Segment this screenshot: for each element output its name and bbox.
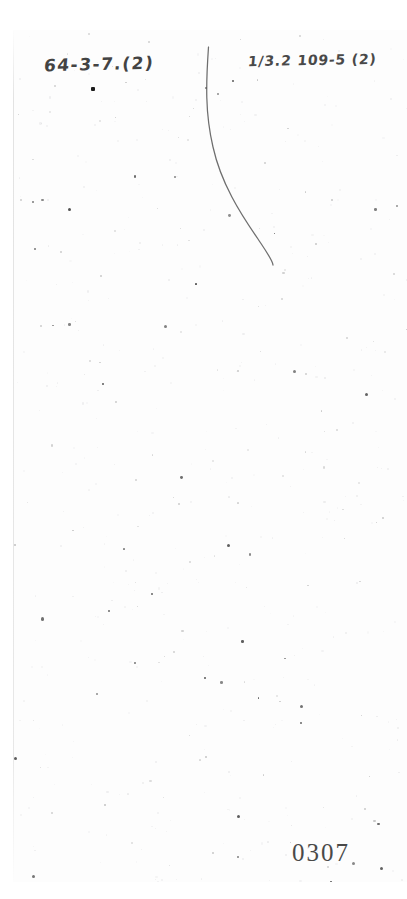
handwritten-reference-left: 64-3-7.(2) (43, 53, 155, 76)
scanned-document-page: 64-3-7.(2) 1/3.2 109-5 (2) 0307 (0, 0, 407, 899)
scan-noise-speckles (13, 30, 407, 882)
scan-sheet-area (13, 30, 407, 882)
handwritten-reference-right: 1/3.2 109-5 (2) (247, 51, 377, 69)
paper-left-edge (13, 30, 14, 882)
page-number-stamp: 0307 (292, 839, 350, 867)
stray-speck (352, 862, 355, 865)
ink-blot-mark (91, 87, 95, 91)
